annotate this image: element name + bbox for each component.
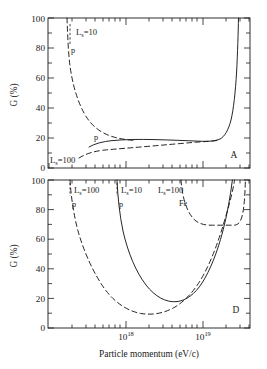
panel-d-ytick-80: 80	[36, 205, 46, 215]
panel-d-x-ticks	[72, 180, 249, 328]
panel-d-ytick-60: 60	[36, 234, 46, 244]
panel-a-ylabel: G (%)	[9, 83, 20, 106]
panel-d-id: D	[233, 305, 240, 315]
panel-d-annotations: Ls=100 Ls=10 Ls=100 p p Fe D	[70, 183, 240, 315]
panel-a-ytick-0: 0	[40, 163, 45, 173]
xtick-label-1e18: 1018	[118, 330, 134, 342]
panel-d-y-ticks	[48, 180, 250, 328]
panel-a-frame	[48, 18, 250, 168]
panel-a-label-ls10: Ls=10	[76, 27, 97, 38]
panel-a: 0 20 40 60 80 100	[9, 14, 250, 173]
panel-d-label-p-b: p	[119, 200, 123, 209]
panel-a-curve-p-ls100	[89, 18, 239, 147]
panel-d-label-ls100-b: Ls=100	[158, 185, 183, 196]
panel-a-ytick-100: 100	[31, 14, 45, 24]
panel-a-label-ls100: Ls=100	[50, 155, 75, 166]
panel-a-annotations: Ls=10 p Ls=100 p A	[50, 24, 238, 166]
panel-a-ytick-80: 80	[36, 43, 46, 53]
panel-d-curve-p-ls10	[117, 180, 232, 302]
figure-container: 0 20 40 60 80 100	[0, 0, 267, 369]
panel-d-ytick-100: 100	[31, 176, 45, 186]
panel-d-label-ls10: Ls=10	[121, 185, 142, 196]
panel-d-curve-fe-ls100	[181, 180, 245, 225]
panel-a-label-p-mid: p	[94, 133, 98, 142]
panel-d-frame	[48, 180, 250, 328]
panel-d-ytick-0: 0	[40, 323, 45, 333]
panel-a-ytick-20: 20	[36, 133, 46, 143]
panel-d-label-ls100-a: Ls=100	[74, 185, 99, 196]
panel-a-id: A	[231, 150, 238, 160]
panel-a-ytick-60: 60	[36, 73, 46, 83]
panel-d-label-fe: Fe	[179, 199, 188, 208]
panel-d-ylabel: G (%)	[9, 244, 20, 267]
panel-a-y-ticks	[48, 18, 250, 168]
panel-d-curve-p-ls100	[70, 180, 235, 314]
panel-d-ytick-40: 40	[36, 264, 46, 274]
panel-d-label-p-a: p	[72, 200, 76, 209]
panel-d: 0 20 40 60 80 100	[9, 176, 250, 360]
panel-d-ytick-20: 20	[36, 294, 46, 304]
figure-svg: 0 20 40 60 80 100	[0, 0, 267, 369]
panel-a-label-p-top: p	[71, 46, 75, 55]
x-axis-title: Particle momentum (eV/c)	[99, 349, 199, 360]
xtick-label-1e19: 1019	[195, 330, 211, 342]
panel-a-ytick-40: 40	[36, 103, 46, 113]
panel-a-x-ticks	[49, 18, 249, 168]
